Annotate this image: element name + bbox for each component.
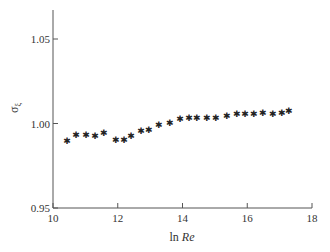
x-tick-label: 18 <box>307 212 319 224</box>
x-tick-label: 14 <box>177 212 189 224</box>
data-point-star-icon: ✱ <box>63 136 71 146</box>
data-point-star-icon: ✱ <box>166 118 174 128</box>
data-point-star-icon: ✱ <box>137 126 145 136</box>
data-points: ✱✱✱✱✱✱✱✱✱✱✱✱✱✱✱✱✱✱✱✱✱✱✱✱✱ <box>63 106 292 146</box>
data-point-star-icon: ✱ <box>203 113 211 123</box>
x-tick-label: 16 <box>242 212 254 224</box>
data-point-star-icon: ✱ <box>241 109 249 119</box>
data-point-star-icon: ✱ <box>72 130 80 140</box>
scatter-chart: 10121416180.951.001.05 ✱✱✱✱✱✱✱✱✱✱✱✱✱✱✱✱✱… <box>0 0 330 252</box>
y-tick-label: 0.95 <box>31 202 51 214</box>
x-axis-label-italic: Re <box>181 230 195 244</box>
x-tick-label: 12 <box>112 212 123 224</box>
x-axis-label: ln Re <box>170 230 196 244</box>
data-point-star-icon: ✱ <box>91 131 99 141</box>
data-point-star-icon: ✱ <box>82 130 90 140</box>
data-point-star-icon: ✱ <box>127 131 135 141</box>
data-point-star-icon: ✱ <box>223 111 231 121</box>
y-tick-label: 1.00 <box>31 118 51 130</box>
data-point-star-icon: ✱ <box>100 128 108 138</box>
data-point-star-icon: ✱ <box>155 120 163 130</box>
data-point-star-icon: ✱ <box>176 114 184 124</box>
data-point-star-icon: ✱ <box>112 135 120 145</box>
data-point-star-icon: ✱ <box>233 109 241 119</box>
data-point-star-icon: ✱ <box>193 113 201 123</box>
x-axis-label-prefix: ln <box>170 230 182 244</box>
data-point-star-icon: ✱ <box>250 109 258 119</box>
y-axis-label-sub: ξ <box>14 103 23 107</box>
y-axis-label: σξ <box>7 103 23 113</box>
data-point-star-icon: ✱ <box>285 106 293 116</box>
data-point-star-icon: ✱ <box>269 109 277 119</box>
data-point-star-icon: ✱ <box>145 125 153 135</box>
data-point-star-icon: ✱ <box>185 113 193 123</box>
y-tick-label: 1.05 <box>31 33 51 45</box>
data-point-star-icon: ✱ <box>259 108 267 118</box>
data-point-star-icon: ✱ <box>212 113 220 123</box>
